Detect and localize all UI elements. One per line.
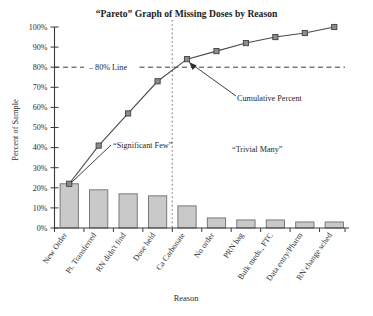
bar: [178, 206, 196, 228]
chart-title: “Pareto” Graph of Missing Doses by Reaso…: [96, 8, 278, 19]
category-labels: New OrderPt. TransferredRN didn't findDo…: [41, 230, 334, 282]
y-tick-label: 30%: [33, 164, 48, 173]
significant-few-annotation: “Significant Few”: [113, 141, 173, 150]
cumulative-percent-marker: [214, 49, 219, 54]
y-tick-label: 0%: [37, 224, 48, 233]
bar: [325, 222, 343, 228]
y-tick-label: 90%: [33, 43, 48, 52]
bar: [237, 220, 255, 228]
cumulative-percent-marker: [184, 57, 189, 62]
y-axis-title: Percent of Sample: [11, 99, 20, 161]
bar: [90, 190, 108, 228]
y-tick-label: 60%: [33, 103, 48, 112]
cumulative-line-series: [67, 24, 337, 186]
y-tick-label: 100%: [29, 23, 48, 32]
bar: [266, 220, 284, 228]
y-tick-label: 70%: [33, 83, 48, 92]
x-axis-ticks: [55, 228, 346, 232]
cumulative-percent-line: [69, 27, 334, 184]
y-tick-label: 20%: [33, 184, 48, 193]
eighty-percent-line-label: – 80% Line: [88, 63, 128, 72]
trivial-many-annotation: “Trivial Many”: [232, 145, 283, 154]
x-category-label: RN didn't find: [94, 231, 128, 274]
cumulative-percent-marker: [243, 40, 248, 45]
y-tick-label: 10%: [33, 204, 48, 213]
bar: [119, 194, 137, 228]
cumulative-percent-marker: [273, 34, 278, 39]
cumulative-percent-marker: [67, 181, 72, 186]
cumulative-percent-marker: [126, 111, 131, 116]
x-category-label: Ca Carbonate: [154, 231, 187, 272]
cumulative-percent-marker: [155, 79, 160, 84]
significant-few-leader-line: [71, 145, 111, 183]
cumulative-percent-marker: [332, 24, 337, 29]
pareto-chart: “Pareto” Graph of Missing Doses by Reaso…: [0, 0, 373, 316]
x-category-label: New Order: [41, 231, 69, 266]
x-category-label: Dose held: [131, 231, 157, 263]
bar: [148, 196, 166, 228]
bar: [207, 218, 225, 228]
bar: [60, 184, 78, 228]
y-tick-label: 40%: [33, 143, 48, 152]
x-category-label: No order: [192, 231, 216, 260]
cumulative-percent-annotation: Cumulative Percent: [237, 94, 303, 103]
bar: [296, 222, 314, 228]
y-tick-label: 80%: [33, 63, 48, 72]
cumulative-percent-marker: [302, 30, 307, 35]
cumulative-percent-arrowhead: [189, 62, 197, 70]
pareto-chart-svg: “Pareto” Graph of Missing Doses by Reaso…: [0, 0, 373, 316]
y-tick-label: 50%: [33, 123, 48, 132]
cumulative-percent-marker: [96, 143, 101, 148]
x-category-label: PRN bag: [221, 231, 245, 260]
chart-annotations: “Significant Few”“Trivial Many”Cumulativ…: [71, 62, 302, 182]
x-axis-title: Reason: [174, 294, 199, 303]
bar-series: [60, 184, 343, 228]
